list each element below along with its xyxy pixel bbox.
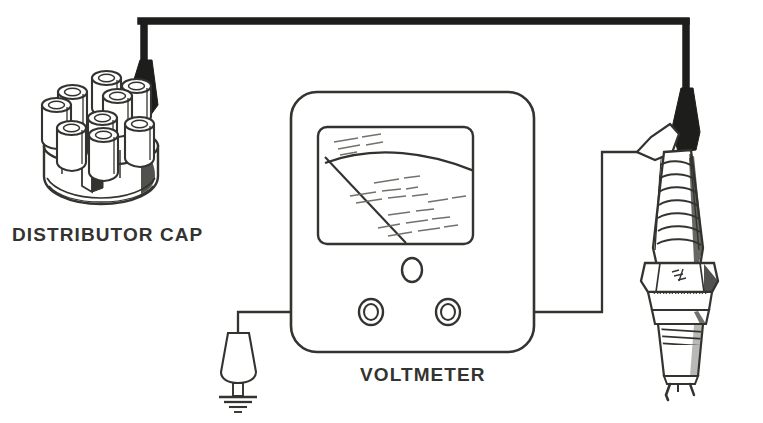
ignition-test-diagram: DISTRIBUTOR CAP: [0, 0, 763, 423]
tower-8: [89, 128, 118, 181]
tower-9: [125, 117, 154, 167]
spark-plug-hex-nut: [641, 263, 718, 292]
tower-7: [57, 121, 86, 171]
voltmeter-terminal-right[interactable]: [436, 299, 460, 325]
spark-plug-threads: [656, 324, 705, 376]
distributor-cap-label: DISTRIBUTOR CAP: [12, 224, 203, 245]
distributor-cap: [42, 71, 158, 204]
voltmeter: [291, 92, 534, 352]
spark-plug-knurled-band: [648, 292, 712, 311]
voltmeter-terminal-left[interactable]: [359, 299, 383, 325]
diagram-canvas: DISTRIBUTOR CAP: [0, 0, 763, 423]
voltmeter-label: VOLTMETER: [360, 364, 486, 385]
voltmeter-knob[interactable]: [402, 258, 422, 282]
